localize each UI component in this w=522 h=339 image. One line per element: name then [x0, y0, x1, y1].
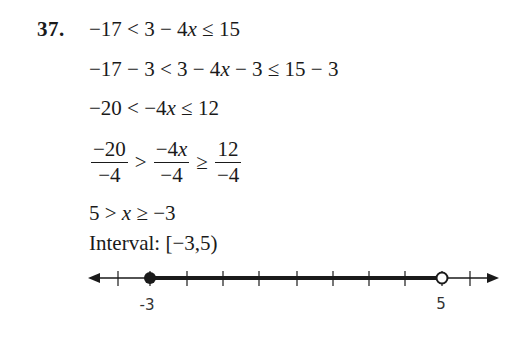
interval-notation: Interval: [−3,5): [89, 230, 217, 256]
step1-right: ≤ 15: [197, 17, 240, 41]
variable-x: x: [167, 96, 176, 120]
greater-or-equal-sign: ≥: [196, 150, 208, 175]
step3-right: ≤ 12: [176, 96, 219, 120]
step5-left: 5 >: [89, 201, 122, 225]
step-divide-by-negative-four: −20 −4 > −4x −4 ≥ 12 −4: [89, 137, 243, 187]
variable-x: x: [178, 137, 187, 161]
step2-right: − 3 ≤ 15 − 3: [230, 57, 339, 81]
interval-value: [−3,5): [165, 231, 217, 255]
number-line-label-neg3: -3: [140, 297, 155, 313]
greater-than-sign: >: [135, 150, 147, 175]
right-arrow-icon: [487, 273, 499, 283]
step-simplified: −20 < −4x ≤ 12: [89, 95, 219, 121]
fraction-middle: −4x −4: [154, 137, 190, 187]
left-arrow-icon: [88, 273, 100, 283]
fraction-denominator: −4: [96, 163, 122, 187]
tick-marks: [118, 271, 470, 286]
fraction-left: −20 −4: [91, 137, 128, 187]
step-original-inequality: −17 < 3 − 4x ≤ 15: [89, 16, 240, 42]
interval-label: Interval:: [89, 231, 160, 255]
fraction-right: 12 −4: [215, 137, 241, 187]
variable-x: x: [122, 201, 131, 225]
step2-left: −17 − 3 < 3 − 4: [89, 57, 220, 81]
problem-number: 37.: [37, 16, 65, 42]
variable-x: x: [220, 57, 229, 81]
fraction-denominator: −4: [215, 163, 241, 187]
variable-x: x: [188, 17, 197, 41]
fraction-denominator: −4: [158, 163, 184, 187]
number-line-label-5: 5: [436, 296, 446, 312]
fraction-numerator: −4x: [154, 137, 190, 161]
step-subtract-three: −17 − 3 < 3 − 4x − 3 ≤ 15 − 3: [89, 56, 338, 82]
number-line: [0, 0, 522, 339]
fraction-numerator: 12: [216, 137, 241, 161]
numerator-coefficient: −4: [156, 137, 178, 161]
step1-left: −17 < 3 − 4: [89, 17, 188, 41]
fraction-numerator: −20: [91, 137, 128, 161]
closed-endpoint-icon: [144, 272, 156, 284]
open-endpoint-icon: [437, 273, 448, 284]
step3-left: −20 < −4: [89, 96, 167, 120]
step5-right: ≥ −3: [131, 201, 175, 225]
step-solution: 5 > x ≥ −3: [89, 200, 176, 226]
